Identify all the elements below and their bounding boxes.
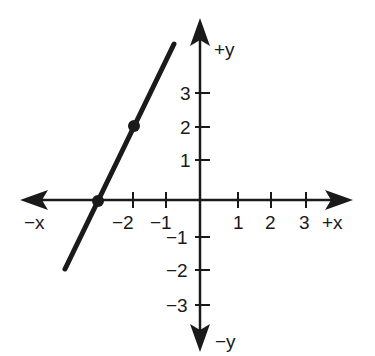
y-tick-label: −2 <box>166 260 188 281</box>
pos-y-label: +y <box>214 39 235 60</box>
y-tick-label: 1 <box>180 150 191 171</box>
point-neg2-2 <box>128 120 140 132</box>
y-tick-label: −1 <box>166 227 188 248</box>
x-tick-label: 3 <box>299 212 310 233</box>
neg-x-label: −x <box>24 212 45 233</box>
y-axis <box>190 18 210 352</box>
x-tick-label: 1 <box>233 212 244 233</box>
pos-x-label: +x <box>322 212 343 233</box>
y-tick-label: −3 <box>166 295 188 316</box>
y-tick-label: 2 <box>180 117 191 138</box>
x-tick-label: −2 <box>112 212 134 233</box>
point-neg3-0 <box>92 195 104 207</box>
y-tick-label: 3 <box>180 83 191 104</box>
x-axis <box>20 190 353 210</box>
x-tick-label: 2 <box>265 212 276 233</box>
neg-y-label: −y <box>215 331 236 352</box>
coordinate-plane: −x +x +y −y −2 −1 1 2 3 3 2 1 −1 −2 −3 <box>0 0 375 356</box>
plotted-line <box>65 44 174 269</box>
